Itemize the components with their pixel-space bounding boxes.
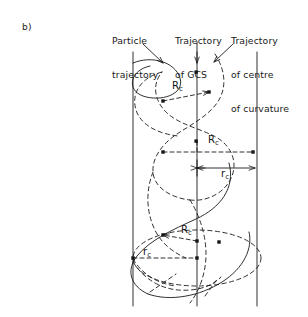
dot-gcs-middle: [194, 139, 197, 142]
label-rc-middle: rc: [221, 168, 229, 181]
figure-panel-b: b) Particle trajectory Trajectory of GCS…: [0, 0, 308, 317]
label-Rc-middle: Rc: [208, 134, 219, 147]
label-Rc-middle-symbol: R: [208, 134, 215, 145]
dot-curvature-middle-right: [251, 150, 254, 153]
label-rc-lower: rc: [143, 246, 151, 259]
dot-orbit-left: [131, 256, 134, 259]
curvature-trajectory-dashed-lowerleft: [148, 172, 186, 258]
diagram-canvas: [0, 0, 308, 317]
dot-orbit-centre: [195, 256, 198, 259]
label-Rc-upper-symbol: R: [172, 80, 179, 91]
dot-particle-upper-left: [161, 99, 164, 102]
label-rc-lower-sub: c: [147, 251, 151, 259]
dot-gcs-top: [194, 70, 197, 73]
label-Rc-lower-symbol: R: [181, 224, 188, 235]
label-Rc-lower: Rc: [181, 224, 192, 237]
label-Rc-lower-sub: c: [188, 229, 192, 237]
data-point-group: [131, 70, 254, 259]
dot-particle-lower-left: [161, 233, 164, 236]
label-Rc-upper-sub: c: [179, 85, 183, 93]
Rc-upper-chord: [163, 92, 209, 101]
dot-curvature-upper-right: [207, 90, 210, 93]
curvature-trajectory-dashed-upper: [153, 54, 224, 200]
callout-arrow-curvature: [214, 44, 233, 62]
dot-particle-middle-left: [161, 150, 164, 153]
gyro-circle-lower-inner-arc2: [133, 259, 176, 286]
label-Rc-upper: Rc: [172, 80, 183, 93]
label-Rc-middle-sub: c: [215, 139, 219, 147]
label-rc-middle-sub: c: [225, 173, 229, 181]
lower-crossing-dash-right: [205, 278, 218, 296]
dot-curvature-lower-right: [217, 240, 220, 243]
dot-gcs-lower: [195, 239, 198, 242]
gyro-circle-lower-inner-arc: [133, 262, 221, 290]
